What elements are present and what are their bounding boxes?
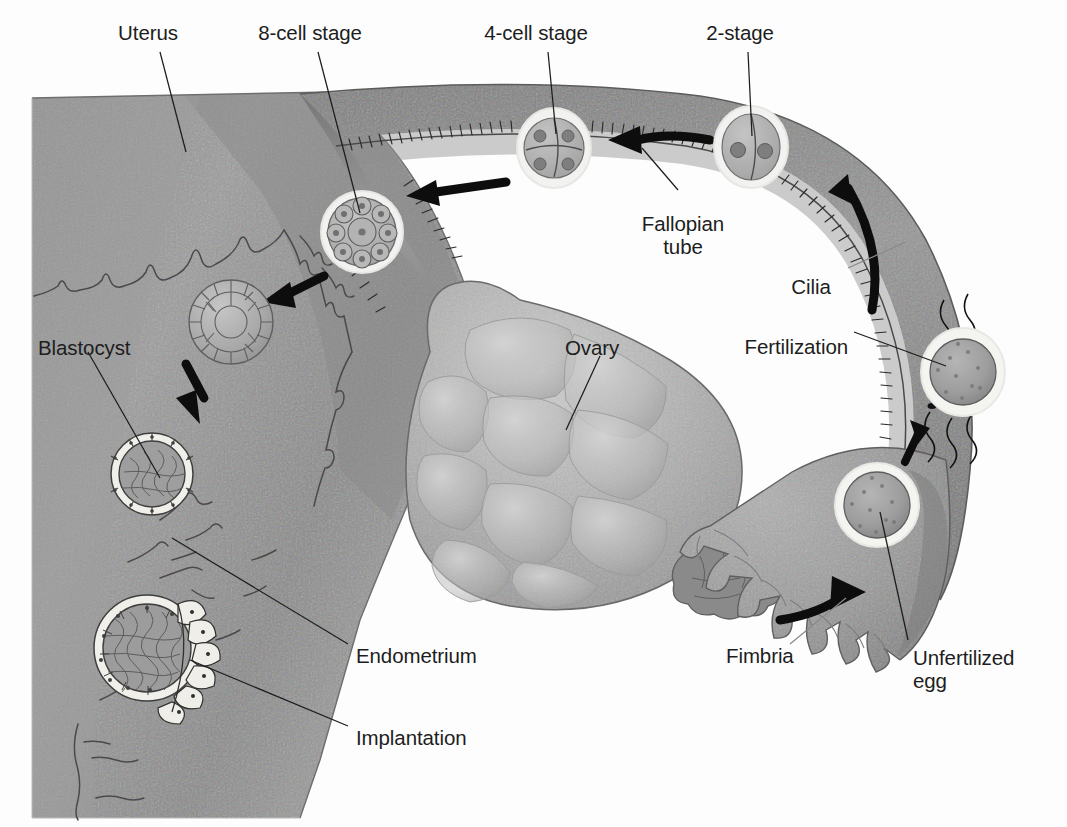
label-fimbria: Fimbria bbox=[726, 645, 794, 668]
label-uterus: Uterus bbox=[118, 22, 178, 45]
stage-fertilization bbox=[921, 328, 1005, 416]
label-four-cell-stage: 4-cell stage bbox=[484, 22, 588, 45]
label-fallopian-tube: Fallopian tube bbox=[642, 213, 724, 259]
stage-eight-cell bbox=[321, 191, 403, 273]
anatomy-illustration bbox=[0, 0, 1067, 827]
stage-morula bbox=[189, 280, 273, 364]
label-unfertilized-egg: Unfertilized egg bbox=[913, 647, 1014, 693]
stage-blastocyst bbox=[111, 433, 193, 515]
label-cilia: Cilia bbox=[791, 276, 830, 299]
label-endometrium: Endometrium bbox=[356, 645, 477, 668]
label-eight-cell-stage: 8-cell stage bbox=[258, 22, 362, 45]
label-blastocyst: Blastocyst bbox=[38, 337, 130, 360]
label-two-stage: 2-stage bbox=[706, 22, 774, 45]
label-fertilization: Fertilization bbox=[744, 336, 848, 359]
label-ovary: Ovary bbox=[565, 337, 619, 360]
diagram-canvas: Uterus 8-cell stage 4-cell stage 2-stage… bbox=[0, 0, 1067, 827]
stage-unfertilized-egg bbox=[835, 463, 919, 547]
label-implantation: Implantation bbox=[356, 727, 466, 750]
stage-four-cell bbox=[517, 108, 591, 188]
